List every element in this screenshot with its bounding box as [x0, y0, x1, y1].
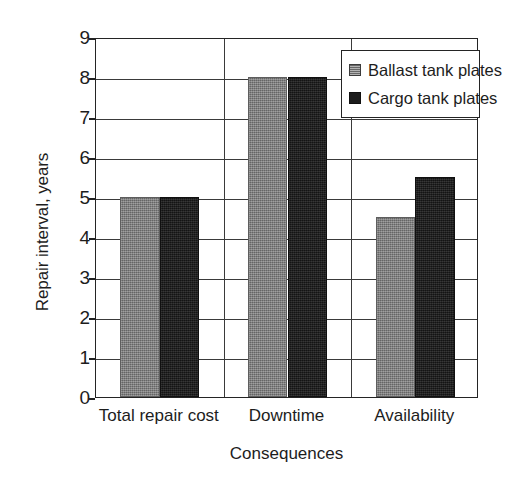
legend-label-ballast-tank-plates: Ballast tank plates: [368, 62, 502, 79]
y-tick-mark-0: [89, 398, 95, 400]
y-tick-label-4: 4: [64, 228, 90, 247]
bar-downtime-ballast-tank-plates: [248, 77, 288, 397]
bar-total-repair-cost-cargo-tank-plates: [160, 197, 200, 397]
category-divider-1: [224, 39, 225, 397]
x-category-label-availability: Availability: [350, 407, 478, 425]
y-tick-label-5: 5: [64, 188, 90, 207]
y-tick-label-6: 6: [64, 148, 90, 167]
legend-swatch-ballast-tank-plates: [349, 64, 361, 76]
y-tick-label-0: 0: [64, 388, 90, 407]
bar-availability-ballast-tank-plates: [376, 217, 416, 397]
x-axis-title: Consequences: [95, 444, 478, 464]
bar-availability-cargo-tank-plates: [415, 177, 455, 397]
legend-entry-1: Cargo tank plates: [349, 84, 479, 112]
bar-chart-figure: Repair interval, years 0123456789 Ballas…: [0, 0, 524, 493]
legend-label-cargo-tank-plates: Cargo tank plates: [368, 90, 497, 107]
y-tick-label-2: 2: [64, 308, 90, 327]
bar-total-repair-cost-ballast-tank-plates: [120, 197, 160, 397]
y-tick-label-9: 9: [64, 28, 90, 47]
y-tick-label-8: 8: [64, 68, 90, 87]
y-tick-label-3: 3: [64, 268, 90, 287]
y-tick-label-7: 7: [64, 108, 90, 127]
y-axis-tick-labels: 0123456789: [62, 0, 90, 493]
y-tick-label-1: 1: [64, 348, 90, 367]
y-axis-title: Repair interval, years: [33, 127, 53, 337]
legend-swatch-cargo-tank-plates: [349, 92, 361, 104]
legend-entry-0: Ballast tank plates: [349, 56, 479, 84]
bar-downtime-cargo-tank-plates: [288, 77, 328, 397]
legend: Ballast tank plates Cargo tank plates: [341, 50, 480, 118]
x-category-label-downtime: Downtime: [223, 407, 351, 425]
x-category-label-total-repair-cost: Total repair cost: [95, 407, 223, 425]
